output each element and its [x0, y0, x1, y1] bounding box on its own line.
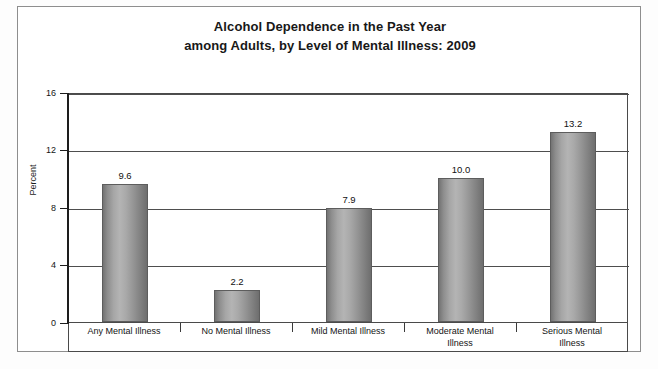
- y-tick-mark-0: [60, 323, 67, 324]
- bar-no-mental-illness: [214, 290, 260, 322]
- category-label-any-mental-illness: Any Mental Illness: [68, 326, 180, 338]
- bar-any-mental-illness: [102, 184, 148, 322]
- bar-mild-mental-illness: [326, 208, 372, 322]
- category-label-line: Mild Mental Illness: [311, 326, 385, 336]
- bar-value-mild-mental-illness: 7.9: [319, 194, 379, 205]
- y-tick-label-16: 16: [32, 88, 56, 98]
- y-tick-mark-16: [60, 93, 67, 94]
- gridline-12: [69, 151, 629, 152]
- category-label-mild-mental-illness: Mild Mental Illness: [292, 326, 404, 338]
- category-label-line: Serious Mental: [542, 326, 602, 336]
- category-label-line: No Mental Illness: [201, 326, 270, 336]
- bar-value-any-mental-illness: 9.6: [95, 170, 155, 181]
- y-tick-label-12: 12: [32, 145, 56, 155]
- category-label-serious-mental-illness: Serious Mental Illness: [516, 326, 628, 349]
- y-tick-mark-4: [60, 265, 67, 266]
- category-label-line: Illness: [447, 338, 473, 348]
- bar-value-no-mental-illness: 2.2: [207, 276, 267, 287]
- bar-serious-mental-illness: [550, 132, 596, 322]
- y-tick-mark-8: [60, 208, 67, 209]
- category-label-line: Any Mental Illness: [87, 326, 160, 336]
- bar-value-moderate-mental-illness: 10.0: [431, 164, 491, 175]
- y-axis-spine: [67, 93, 69, 324]
- bar-value-serious-mental-illness: 13.2: [543, 118, 603, 129]
- plot-area: 9.6 2.2 7.9 10.0 13.2: [68, 93, 628, 323]
- y-tick-mark-12: [60, 150, 67, 151]
- bar-moderate-mental-illness: [438, 178, 484, 322]
- chart-title-line-2: among Adults, by Level of Mental Illness…: [40, 36, 620, 55]
- chart-screenshot: Alcohol Dependence in the Past Year amon…: [0, 0, 658, 369]
- category-label-moderate-mental-illness: Moderate Mental Illness: [404, 326, 516, 349]
- category-label-line: Moderate Mental: [426, 326, 494, 336]
- chart-title-line-1: Alcohol Dependence in the Past Year: [40, 17, 620, 36]
- chart-title: Alcohol Dependence in the Past Year amon…: [40, 17, 620, 55]
- y-tick-label-8: 8: [32, 203, 56, 213]
- category-label-line: Illness: [559, 338, 585, 348]
- y-tick-label-0: 0: [32, 318, 56, 328]
- category-label-no-mental-illness: No Mental Illness: [180, 326, 292, 338]
- gridline-16: [69, 94, 629, 95]
- y-tick-label-4: 4: [32, 260, 56, 270]
